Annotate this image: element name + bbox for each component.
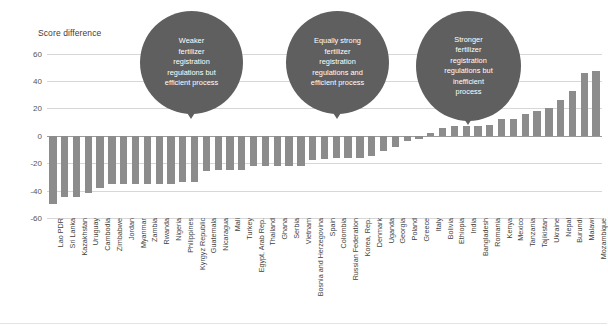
bar (415, 136, 422, 139)
x-tick-label: Zimbabwe (115, 218, 124, 251)
bar (344, 136, 351, 158)
x-tick-label: Italy (434, 218, 443, 231)
x-tick-label: Colombia (339, 218, 348, 248)
bar (309, 136, 316, 161)
y-tick-label--40: -40 (20, 186, 42, 195)
x-tick-label: Cambodia (103, 218, 112, 251)
bar (191, 136, 198, 183)
annotation-line: registration (165, 57, 218, 68)
bar (392, 136, 399, 147)
y-tick-label--20: -20 (20, 159, 42, 168)
bar (120, 136, 127, 184)
annotation-bubble-stronger-tail (461, 114, 475, 125)
bar (238, 136, 245, 170)
annotation-line: regulations and (311, 68, 364, 79)
x-tick-label: Mexico (516, 218, 525, 241)
bar (474, 126, 481, 136)
bar (167, 136, 174, 184)
x-tick-label: India (469, 218, 478, 234)
x-tick-label: Nicaragua (221, 218, 230, 251)
bar (226, 136, 233, 170)
bar (380, 136, 387, 151)
x-tick-label: Uganda (387, 218, 396, 243)
annotation-line: efficient process (165, 78, 218, 89)
y-tick-label-0: 0 (20, 131, 42, 140)
x-tick-label: Vietnam (304, 218, 313, 244)
bar (297, 136, 304, 166)
x-tick-label: Rwanda (162, 218, 171, 244)
x-tick-label: Georgia (398, 218, 407, 244)
annotation-line: registration (444, 56, 492, 67)
bar (333, 136, 340, 158)
x-tick-label: Nigeria (174, 218, 183, 241)
annotation-line: regulations but (165, 68, 218, 79)
annotation-bubble-equally-strong-text: Equally strongfertilizerregistrationregu… (311, 36, 364, 89)
x-tick-label: Denmark (375, 218, 384, 247)
x-tick-label: Bosnia and Herzegovina (316, 218, 325, 296)
x-tick-label: Sri Lanka (68, 218, 77, 248)
annotation-line: Stronger (444, 35, 492, 46)
annotation-line: process (444, 87, 492, 98)
bar (61, 136, 68, 198)
bar (203, 136, 210, 172)
x-tick-label: Uruguay (91, 218, 100, 245)
annotation-bubble-stronger-text: Strongerfertilizerregistrationregulation… (444, 35, 492, 98)
bar (250, 136, 257, 166)
bar (569, 91, 576, 136)
x-axis-category-labels: Lao PDRSri LankaKazakhstanUruguayCambodi… (47, 218, 602, 324)
x-tick-label: Mozambique (599, 218, 608, 259)
bar (368, 136, 375, 157)
y-tick-label-40: 40 (20, 77, 42, 86)
y-tick-label-20: 20 (20, 104, 42, 113)
y-axis-title: Score difference (38, 28, 101, 38)
bar (73, 136, 80, 198)
bar (144, 136, 151, 184)
x-tick-label: Kenya (505, 218, 514, 238)
annotation-line: fertilizer (444, 45, 492, 56)
bar (522, 114, 529, 136)
bar (486, 125, 493, 136)
x-tick-label: Russian Federation (351, 218, 360, 280)
annotation-bubble-weaker-text: Weakerfertilizerregistrationregulations … (165, 36, 218, 89)
bar (533, 111, 540, 136)
annotation-line: fertilizer (311, 47, 364, 58)
x-tick-label: Greece (422, 218, 431, 242)
bar (156, 136, 163, 184)
bar (215, 136, 222, 170)
x-tick-label: Tajikistan (540, 218, 549, 248)
bar (132, 136, 139, 184)
x-tick-label: Nepal (564, 218, 573, 237)
bar (439, 128, 446, 136)
annotation-bubble-stronger: Strongerfertilizerregistrationregulation… (416, 11, 521, 121)
x-tick-label: Burundi (575, 218, 584, 243)
y-tick-label--60: -60 (20, 214, 42, 223)
bar (179, 136, 186, 183)
x-tick-label: Lao PDR (56, 218, 65, 247)
bar (463, 126, 470, 136)
bar (557, 100, 564, 136)
bar (285, 136, 292, 166)
bar (581, 73, 588, 136)
y-tick-label-60: 60 (20, 49, 42, 58)
annotation-line: inefficient (444, 77, 492, 88)
bottom-divider (0, 323, 607, 324)
bar (451, 126, 458, 136)
x-tick-label: Korea, Rep. (363, 218, 372, 256)
x-tick-label: Bangladesh (481, 218, 490, 256)
annotation-bubble-weaker: Weakerfertilizerregistrationregulations … (140, 11, 243, 114)
bar (49, 136, 56, 204)
bar (427, 133, 434, 136)
x-tick-label: Mali (233, 218, 242, 231)
x-tick-label: Spain (328, 218, 337, 236)
x-tick-label: Serbia (292, 218, 301, 239)
bar (274, 136, 281, 166)
x-tick-label: Tanzania (528, 218, 537, 247)
bar (321, 136, 328, 159)
x-tick-label: Zambia (150, 218, 159, 242)
x-tick-label: Philippines (186, 218, 195, 253)
x-tick-label: Egypt, Arab Rep. (257, 218, 266, 272)
x-tick-label: Kyrgyz Republic (198, 218, 207, 270)
bar (498, 119, 505, 135)
annotation-line: fertilizer (165, 47, 218, 58)
